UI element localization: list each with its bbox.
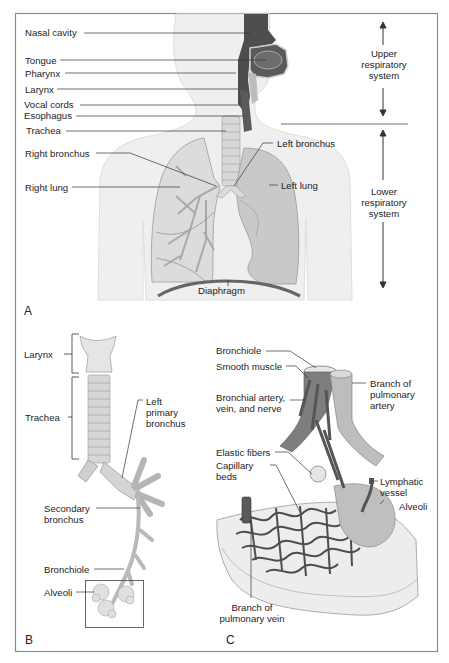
panel-b-illustration (64, 334, 162, 628)
trachea-b (88, 375, 110, 463)
label-larynx: Larynx (25, 84, 54, 95)
label-c-bronchiole: Bronchiole (216, 345, 261, 356)
panel-a-illustration (57, 14, 408, 300)
label-right-lung: Right lung (25, 182, 68, 193)
label-branch-pulmonary-vein: Branch of pulmonary vein (213, 602, 291, 624)
label-vocal-cords: Vocal cords (24, 99, 74, 110)
label-bronchial-artery-vein-nerve: Bronchial artery, vein, and nerve (216, 392, 285, 414)
respiratory-system-figure: Nasal cavity Tongue Pharynx Larynx Vocal… (0, 0, 449, 663)
label-b-trachea: Trachea (25, 412, 60, 423)
label-smooth-muscle: Smooth muscle (216, 361, 282, 372)
secondary-bronchus (112, 498, 152, 604)
label-tongue: Tongue (25, 55, 56, 66)
label-right-bronchus: Right bronchus (25, 148, 90, 159)
label-b-bronchiole: Bronchiole (44, 564, 89, 575)
pulmonary-vein (242, 497, 251, 523)
label-b-alveoli: Alveoli (44, 587, 72, 598)
brackets (64, 334, 79, 459)
trachea-rings (222, 116, 240, 186)
panel-letter-a: A (24, 304, 32, 318)
panel-letter-c: C (226, 633, 235, 647)
label-left-primary-bronchus: Left primary bronchus (146, 396, 185, 429)
label-left-lung: Left lung (281, 180, 318, 191)
label-diaphragm: Diaphragm (198, 285, 245, 296)
label-nasal-cavity: Nasal cavity (25, 27, 77, 38)
label-lymphatic-vessel: Lymphatic vessel (380, 476, 423, 498)
label-trachea: Trachea (26, 125, 61, 136)
panel-letter-b: B (25, 633, 33, 647)
label-esophagus: Esophagus (24, 110, 72, 121)
label-capillary-beds: Capillary beds (216, 460, 253, 482)
label-elastic-fibers: Elastic fibers (216, 447, 270, 458)
label-lower-respiratory-system: Lower respiratory system (358, 186, 410, 219)
larynx-cartilage (80, 336, 116, 372)
label-secondary-bronchus: Secondary bronchus (44, 503, 90, 525)
label-upper-respiratory-system: Upper respiratory system (358, 48, 410, 81)
label-left-bronchus: Left bronchus (277, 138, 335, 149)
elastic-fiber-ball (310, 466, 326, 482)
label-b-larynx: Larynx (24, 349, 53, 360)
label-pharynx: Pharynx (25, 68, 60, 79)
label-branch-pulmonary-artery: Branch of pulmonary artery (370, 378, 415, 411)
label-c-alveoli: Alveoli (399, 501, 427, 512)
